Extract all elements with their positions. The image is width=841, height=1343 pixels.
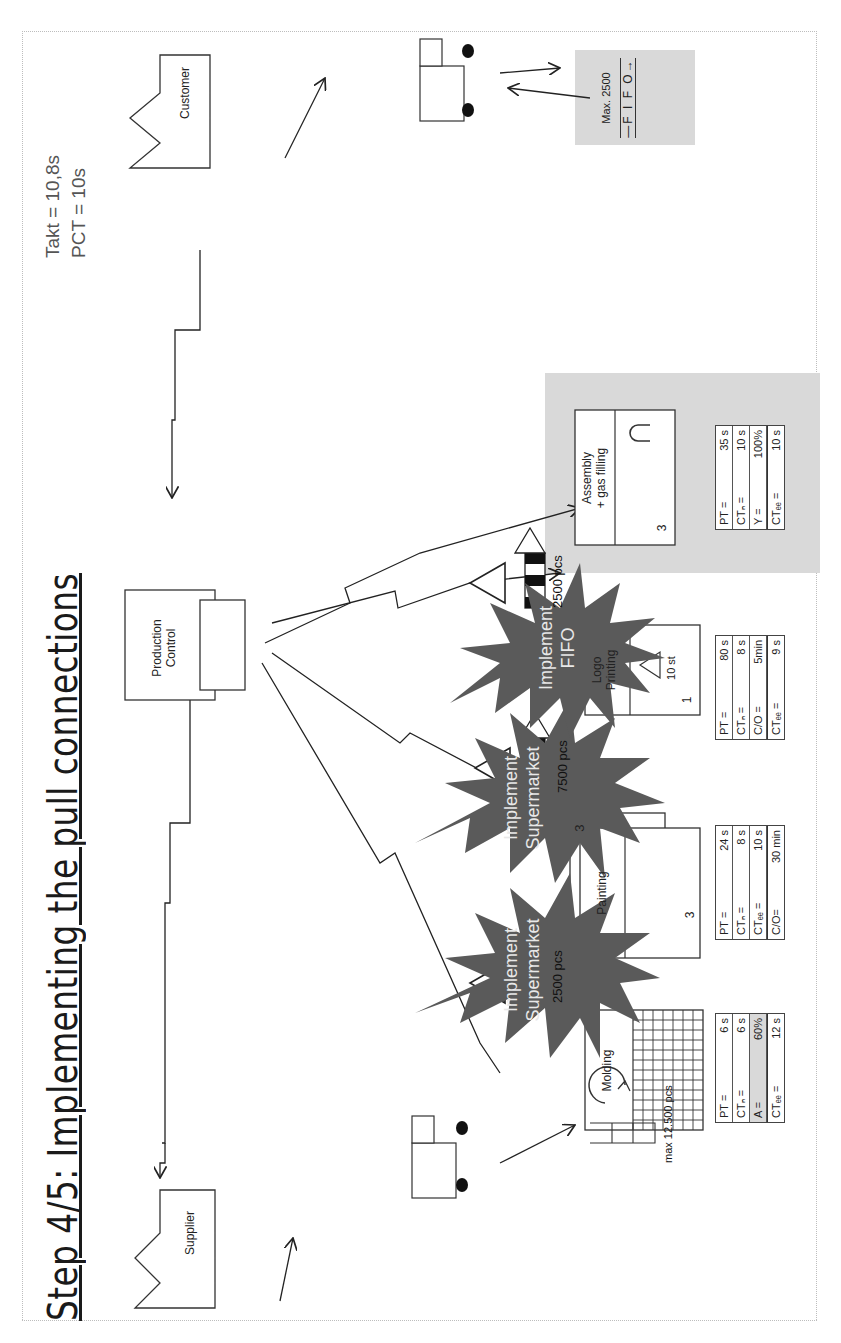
- data-row: CTₙ =8 s: [733, 636, 750, 739]
- data-row: CTₙ =8 s: [733, 826, 750, 939]
- painting-data-box: PT =24 s CTₙ =8 s CTₑₑ =10 s C/O=30 min: [715, 825, 785, 940]
- kaizen-burst-2-text: ImplementSupermarket: [500, 743, 544, 853]
- logo-printing-label: Logo Printing: [590, 627, 618, 713]
- kaizen-burst-3-text: ImplementFIFO: [535, 593, 579, 703]
- assembly-data-box: PT =35 s CTₙ =10 s Y =100% CTₑₑ =10 s: [715, 425, 785, 530]
- painting-operators: 3: [683, 895, 697, 935]
- data-row: Y =100%: [750, 426, 767, 529]
- data-row: PT =24 s: [716, 826, 733, 939]
- data-row: CTₑₑ =12 s: [767, 1014, 784, 1122]
- value-stream-map-slide: Step 4/5: Implementing the pull connecti…: [0, 0, 841, 1343]
- production-control-label: Production Control: [150, 603, 178, 693]
- molding-label: Molding: [600, 1013, 614, 1128]
- data-row: CTₑₑ =9 s: [767, 636, 784, 739]
- data-row: PT =80 s: [716, 636, 733, 739]
- data-row: PT =35 s: [716, 426, 733, 529]
- data-row: C/O =5min: [750, 636, 767, 739]
- data-row: CTₑₑ =10 s: [767, 426, 784, 529]
- assembly-operators: 3: [655, 513, 669, 543]
- data-row: C/O=30 min: [767, 826, 784, 939]
- painting-label: Painting: [595, 833, 609, 953]
- painting-output-qty: 7500 pcs: [555, 740, 570, 793]
- data-row: PT =6 s: [716, 1014, 733, 1122]
- logo-operators: 1: [680, 685, 694, 715]
- supplier-label: Supplier: [183, 1203, 197, 1263]
- assembly-label: Assembly + gas filling: [580, 413, 608, 543]
- raw-inventory-qty: max 12.500 pcs: [662, 1085, 674, 1163]
- logo-printing-data-box: PT =80 s CTₙ =8 s C/O =5min CTₑₑ =9 s: [715, 635, 785, 740]
- data-row: CTₑₑ =10 s: [750, 826, 767, 939]
- data-row: CTₙ =10 s: [733, 426, 750, 529]
- molding-output-qty: 2500 pcs: [550, 950, 565, 1003]
- data-row: A =60%: [750, 1014, 767, 1122]
- truck-icon-supplier: [412, 1116, 468, 1198]
- molding-data-box: PT =6 s CTₙ =6 s A =60% CTₑₑ =12 s: [715, 1013, 785, 1123]
- customer-label: Customer: [178, 63, 192, 123]
- data-row: CTₙ =6 s: [733, 1014, 750, 1122]
- supplier-factory-icon: [135, 1190, 215, 1308]
- customer-factory-icon: [130, 55, 210, 168]
- painting-parallel-count: 3: [572, 818, 587, 838]
- truck-icon-customer: [420, 39, 474, 121]
- logo-stock: 10 st: [665, 648, 677, 688]
- kaizen-burst-1-text: ImplementSupermarket: [500, 915, 544, 1025]
